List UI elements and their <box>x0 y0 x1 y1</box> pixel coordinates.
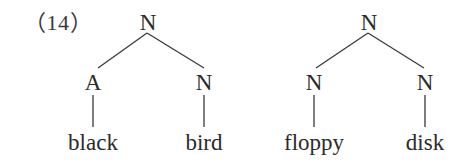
tree2-edge-root-right <box>368 33 424 68</box>
tree2-right-word: disk <box>406 131 444 154</box>
tree1-edge-root-left <box>98 33 147 68</box>
tree2-left-node: N <box>306 71 323 94</box>
tree2-root-node: N <box>361 11 378 34</box>
tree1-edge-root-right <box>147 33 204 68</box>
tree1-root-node: N <box>140 11 157 34</box>
tree1-left-node: A <box>85 71 102 94</box>
tree2-right-node: N <box>417 71 434 94</box>
syntax-tree-diagram: （14） N A N black bird N N N floppy disk <box>0 0 471 164</box>
tree1-right-node: N <box>196 71 213 94</box>
example-number: （14） <box>24 12 92 34</box>
tree2-edge-root-left <box>316 33 368 68</box>
tree1-left-word: black <box>68 131 118 154</box>
tree2-left-word: floppy <box>284 131 344 154</box>
tree1-right-word: bird <box>185 131 222 154</box>
